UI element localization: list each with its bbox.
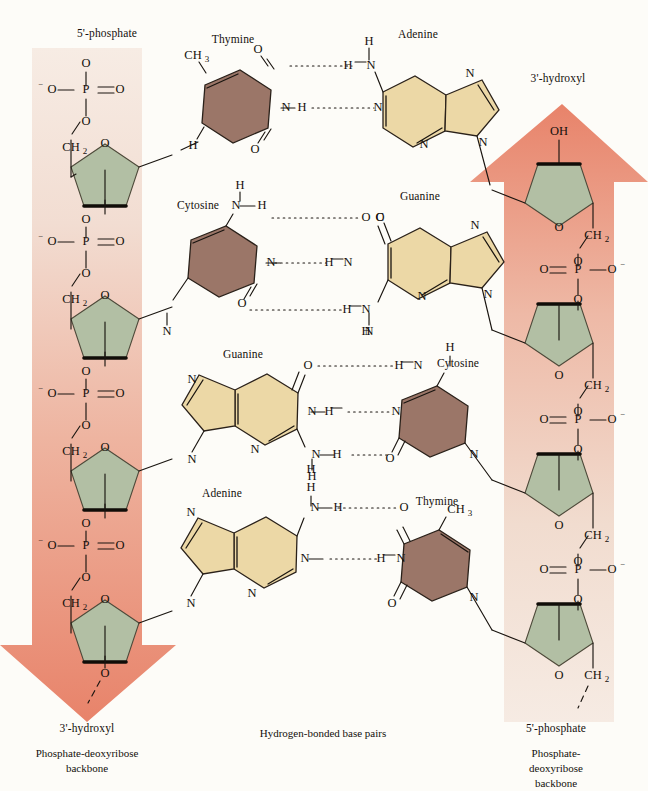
base-label-cytosine-2: Cytosine (437, 357, 479, 369)
svg-text:N: N (187, 372, 196, 386)
svg-text:CH: CH (62, 596, 79, 610)
svg-text:O: O (81, 418, 90, 432)
svg-text:O: O (81, 56, 90, 70)
svg-text:N: N (396, 551, 405, 565)
svg-text:O: O (47, 386, 56, 400)
svg-text:2: 2 (605, 384, 610, 394)
svg-text:O: O (100, 136, 109, 150)
svg-text:H: H (297, 100, 306, 114)
caption-right-backbone: Phosphate-deoxyribose backbone (510, 746, 602, 791)
svg-text:H: H (343, 58, 352, 72)
svg-text:N: N (465, 66, 474, 80)
svg-text:H: H (364, 34, 373, 48)
svg-text:P: P (575, 562, 582, 576)
svg-text:O: O (100, 666, 109, 680)
svg-text:N: N (419, 137, 428, 151)
svg-text:N: N (231, 198, 240, 212)
svg-text:O: O (375, 210, 384, 224)
svg-text:O: O (539, 562, 548, 576)
pyrimidine-ring (188, 226, 257, 297)
svg-text:O: O (115, 538, 124, 552)
svg-text:O: O (115, 234, 124, 248)
svg-text:N: N (469, 590, 478, 604)
svg-text:N: N (266, 255, 275, 269)
svg-text:O: O (81, 364, 90, 378)
label-five-prime-phosphate-left: 5'-phosphate (77, 27, 137, 39)
svg-text:−: − (39, 383, 44, 393)
pyrimidine-ring (399, 386, 468, 457)
svg-text:2: 2 (83, 146, 88, 156)
svg-text:N: N (186, 505, 195, 519)
caption-left-backbone: Phosphate-deoxyribose backbone (36, 746, 139, 776)
base-pair-cytosine-guanine (167, 192, 504, 330)
svg-text:CH: CH (584, 668, 601, 682)
svg-text:−: − (39, 535, 44, 545)
purine-six-ring (234, 517, 297, 588)
base-label-cytosine-1: Cytosine (177, 199, 219, 211)
svg-text:3: 3 (205, 54, 210, 64)
svg-text:N: N (364, 324, 373, 338)
svg-text:2: 2 (605, 534, 610, 544)
svg-text:O: O (361, 210, 370, 224)
three-prime-open-bond (88, 681, 100, 703)
svg-text:CH: CH (584, 378, 601, 392)
svg-text:N: N (361, 302, 370, 316)
svg-text:2: 2 (83, 450, 88, 460)
svg-text:N: N (417, 289, 426, 303)
label-five-prime-phosphate-right: 5'-phosphate (526, 722, 586, 734)
purine-five-ring (445, 80, 499, 136)
svg-text:H: H (445, 340, 454, 354)
svg-text:O: O (81, 212, 90, 226)
svg-text:N: N (310, 500, 319, 514)
svg-text:2: 2 (605, 674, 610, 684)
svg-text:O: O (607, 562, 616, 576)
svg-text:P: P (83, 538, 90, 552)
five-prime-open-bond (578, 686, 588, 708)
svg-text:CH: CH (62, 444, 79, 458)
svg-text:N: N (250, 442, 259, 456)
svg-text:OH: OH (550, 124, 568, 138)
svg-text:O: O (81, 516, 90, 530)
svg-text:O: O (385, 451, 394, 465)
svg-text:N: N (483, 287, 492, 301)
svg-text:O: O (81, 114, 90, 128)
svg-text:O: O (573, 592, 582, 606)
svg-text:O: O (115, 386, 124, 400)
purine-six-ring (235, 374, 298, 445)
svg-text:O: O (554, 220, 563, 234)
svg-text:N: N (343, 255, 352, 269)
label-three-prime-hydroxyl-left: 3'-hydroxyl (60, 722, 115, 734)
base-label-guanine-1: Guanine (400, 190, 440, 202)
base-label-thymine-3: Thymine (416, 495, 459, 507)
svg-text:O: O (554, 368, 563, 382)
label-three-prime-hydroxyl-right: 3'-hydroxyl (531, 72, 586, 84)
svg-text:O: O (554, 668, 563, 682)
svg-text:N: N (186, 596, 195, 610)
svg-text:2: 2 (83, 298, 88, 308)
svg-text:H: H (235, 178, 244, 192)
svg-text:P: P (83, 82, 90, 96)
svg-text:CH: CH (62, 140, 79, 154)
svg-text:O: O (81, 570, 90, 584)
svg-text:H: H (342, 302, 351, 316)
svg-text:O: O (100, 288, 109, 302)
svg-text:N: N (478, 135, 487, 149)
svg-text:N: N (307, 404, 316, 418)
svg-text:O: O (539, 262, 548, 276)
svg-text:N: N (187, 452, 196, 466)
svg-text:CH: CH (584, 528, 601, 542)
svg-text:CH: CH (184, 48, 201, 62)
base-pair-thymine-adenine (181, 48, 499, 185)
svg-text:N: N (391, 404, 400, 418)
svg-text:O: O (303, 358, 312, 372)
svg-text:H: H (332, 447, 341, 461)
svg-text:O: O (573, 442, 582, 456)
svg-text:O: O (47, 234, 56, 248)
svg-text:N: N (366, 58, 375, 72)
base-pair-adenine-thymine (181, 496, 492, 630)
svg-text:H: H (324, 255, 333, 269)
svg-text:O: O (539, 412, 548, 426)
svg-text:−: − (621, 409, 626, 419)
svg-text:O: O (554, 518, 563, 532)
